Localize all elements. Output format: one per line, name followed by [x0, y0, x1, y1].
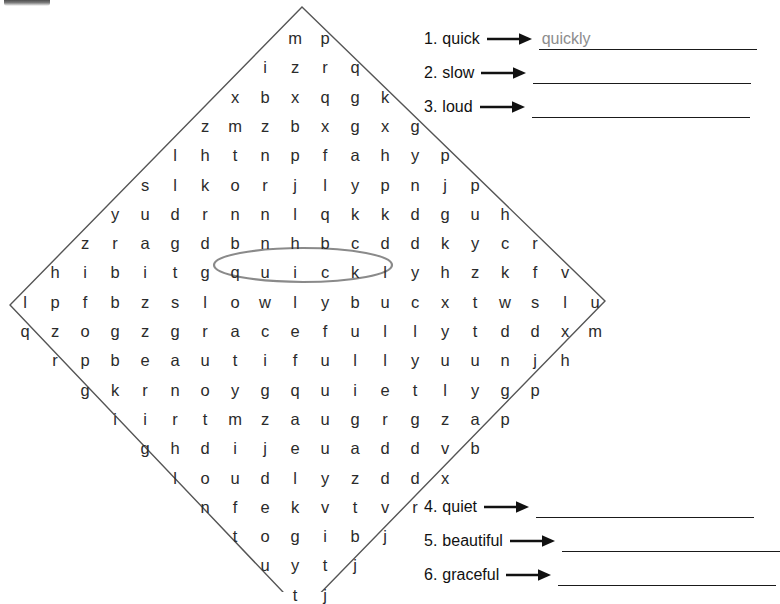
letter-cell: u [310, 382, 340, 399]
word-list-item: 2.slow [424, 56, 757, 90]
letter-cell: l [160, 177, 190, 194]
letter-cell: q [310, 89, 340, 106]
letter-cell: u [310, 411, 340, 428]
letter-cell: a [340, 440, 370, 457]
letter-cell: g [190, 264, 220, 281]
letter-cell: d [370, 440, 400, 457]
letter-cell: t [220, 352, 250, 369]
answer-blank[interactable] [562, 531, 780, 552]
base-word: slow [442, 64, 474, 82]
letter-cell: g [340, 89, 370, 106]
base-word: graceful [442, 566, 499, 584]
letter-cell: f [280, 352, 310, 369]
letter-cell: l [370, 264, 400, 281]
letter-cell: p [520, 382, 550, 399]
letter-cell: b [100, 352, 130, 369]
letter-cell: u [310, 352, 340, 369]
letter-cell: y [310, 294, 340, 311]
letter-cell: q [10, 323, 40, 340]
letter-cell: j [430, 177, 460, 194]
letter-cell: e [370, 382, 400, 399]
letter-cell: u [130, 206, 160, 223]
letter-cell: y [400, 264, 430, 281]
letter-cell: g [340, 118, 370, 135]
letter-cell: a [340, 147, 370, 164]
letter-cell: j [280, 177, 310, 194]
letter-cell: q [220, 264, 250, 281]
letter-cell: k [340, 206, 370, 223]
letter-cell: j [520, 352, 550, 369]
letter-cell: n [250, 206, 280, 223]
letter-cell: z [70, 235, 100, 252]
answer-blank[interactable] [532, 97, 750, 118]
letter-cell: u [190, 352, 220, 369]
letter-cell: p [430, 147, 460, 164]
letter-cell: z [130, 294, 160, 311]
letter-cell: x [280, 89, 310, 106]
letter-cell: a [280, 411, 310, 428]
letter-cell: n [160, 382, 190, 399]
letter-cell: j [340, 557, 370, 574]
letter-cell: k [490, 264, 520, 281]
letter-cell: c [340, 235, 370, 252]
letter-cell: b [340, 528, 370, 545]
letter-cell: e [280, 440, 310, 457]
letter-cell: b [460, 440, 490, 457]
answer-blank[interactable] [558, 565, 776, 586]
letter-cell: a [130, 235, 160, 252]
letter-cell: f [310, 147, 340, 164]
letter-cell: y [220, 382, 250, 399]
letter-cell: d [400, 206, 430, 223]
letter-cell: l [160, 470, 190, 487]
letter-cell: s [130, 177, 160, 194]
letter-cell: d [190, 440, 220, 457]
letter-grid-row: lpfbzslowlybucxtwslu [0, 294, 620, 311]
letter-cell: n [190, 499, 220, 516]
letter-cell: a [160, 352, 190, 369]
letter-cell: o [70, 323, 100, 340]
letter-cell: c [250, 323, 280, 340]
letter-cell: l [340, 352, 370, 369]
letter-grid-row: yudrnnlqkkdguh [0, 206, 620, 223]
letter-cell: p [310, 30, 340, 47]
letter-cell: r [310, 59, 340, 76]
letter-cell: z [460, 264, 490, 281]
answer-blank[interactable]: quickly [539, 29, 757, 50]
letter-cell: d [490, 323, 520, 340]
letter-cell: d [520, 323, 550, 340]
letter-cell: d [160, 206, 190, 223]
letter-cell: x [430, 294, 460, 311]
letter-cell: f [70, 294, 100, 311]
letter-cell: x [220, 89, 250, 106]
word-list-item: 6.graceful [424, 558, 780, 592]
letter-cell: n [250, 147, 280, 164]
letter-cell: n [490, 352, 520, 369]
letter-cell: d [400, 440, 430, 457]
letter-cell: z [280, 59, 310, 76]
letter-cell: k [370, 89, 400, 106]
letter-cell: t [460, 323, 490, 340]
item-number: 2. [424, 64, 437, 82]
letter-cell: k [190, 177, 220, 194]
letter-cell: t [460, 294, 490, 311]
letter-cell: v [370, 499, 400, 516]
answer-blank[interactable] [533, 63, 751, 84]
letter-cell: h [280, 235, 310, 252]
letter-cell: b [220, 235, 250, 252]
letter-cell: z [250, 118, 280, 135]
letter-cell: k [430, 235, 460, 252]
letter-cell: v [430, 440, 460, 457]
letter-cell: l [10, 294, 40, 311]
letter-cell: u [340, 323, 370, 340]
letter-cell: l [550, 294, 580, 311]
answer-blank[interactable] [536, 497, 754, 518]
letter-cell: t [280, 587, 310, 604]
letter-cell: w [250, 294, 280, 311]
letter-cell: s [520, 294, 550, 311]
letter-cell: y [400, 352, 430, 369]
letter-cell: e [250, 499, 280, 516]
right-arrow-icon [480, 100, 526, 114]
letter-cell: l [370, 323, 400, 340]
letter-grid-row: loudlyzddx [0, 470, 620, 487]
letter-cell: t [190, 411, 220, 428]
